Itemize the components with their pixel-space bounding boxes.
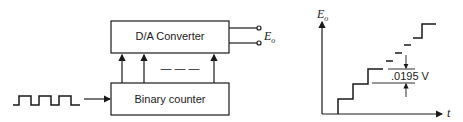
output-terminals [229,26,261,45]
x-axis-label: t [447,106,451,120]
step-size-label: .0195 V [391,70,430,82]
dac-diagram: D/A Converter Binary counter — — — Eo Eo… [0,0,463,122]
counter-block: Binary counter [111,83,229,115]
y-axis-label: Eo [316,7,328,23]
graph-axes [322,22,442,114]
bus-ellipsis: — — — [160,62,199,74]
dac-block: D/A Converter [111,21,229,53]
output-label: Eo [263,29,275,45]
staircase-waveform [338,24,436,114]
dac-label: D/A Converter [135,30,204,42]
clock-pulse-input [13,96,110,105]
counter-label: Binary counter [135,93,206,105]
